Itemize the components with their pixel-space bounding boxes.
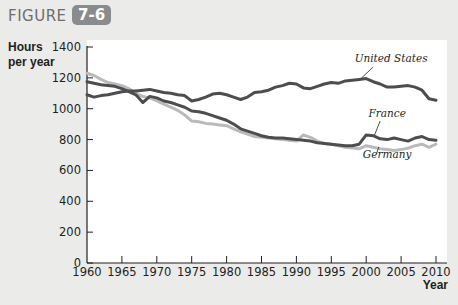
y-tick-label: 1000 — [52, 102, 81, 116]
series-label-united-states: United States — [355, 52, 429, 64]
leader-line — [361, 67, 373, 78]
x-tick-label: 1965 — [107, 265, 136, 279]
y-tick-label: 800 — [59, 133, 81, 147]
x-tick-label: 1980 — [212, 265, 241, 279]
x-tick-label: 1990 — [282, 265, 311, 279]
y-tick-label: 600 — [59, 163, 81, 177]
x-tick-label: 2005 — [386, 265, 415, 279]
y-tick-label: 200 — [59, 225, 81, 239]
leader-line — [375, 121, 381, 135]
y-tick-label: 1200 — [52, 71, 81, 85]
x-tick-label: 2010 — [421, 265, 450, 279]
x-tick-label: 1970 — [142, 265, 171, 279]
x-tick-label: 2000 — [352, 265, 381, 279]
x-tick-label: 1975 — [177, 265, 206, 279]
series-label-germany: Germany — [363, 148, 413, 160]
y-tick-label: 400 — [59, 194, 81, 208]
series-label-france: France — [367, 107, 405, 119]
x-tick-label: 1985 — [247, 265, 276, 279]
line-chart: 0200400600800100012001400196019651970197… — [0, 0, 458, 305]
x-tick-label: 1995 — [317, 265, 346, 279]
y-tick-label: 1400 — [52, 40, 81, 54]
x-tick-label: 1960 — [72, 265, 101, 279]
